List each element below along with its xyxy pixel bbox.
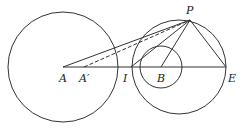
- label-point-p: P: [186, 5, 193, 16]
- label-point-e: E: [228, 73, 236, 84]
- segment-ap: [63, 20, 190, 67]
- segments-group: [63, 20, 226, 67]
- segment-a-primep: [84, 20, 190, 67]
- segment-bp: [161, 20, 190, 67]
- label-point-i: I: [123, 73, 127, 84]
- segment-pe: [190, 20, 226, 67]
- label-point-a: A: [59, 73, 67, 84]
- diagram-svg: [0, 0, 250, 130]
- label-point-b: B: [157, 73, 165, 84]
- geometry-diagram: A A′ I B E P: [0, 0, 250, 130]
- label-point-a-prime: A′: [79, 73, 89, 84]
